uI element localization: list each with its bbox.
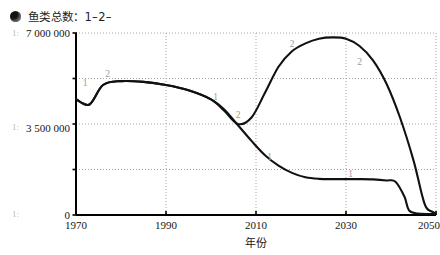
series-point-label: 1	[348, 169, 353, 179]
series-point-label: 2	[105, 69, 110, 79]
series-point-label: 1	[267, 152, 272, 162]
series-point-label: 2	[357, 57, 362, 67]
series-point-label: 1	[83, 78, 88, 88]
series-line-1	[76, 81, 436, 214]
series-point-label: 1	[213, 92, 218, 102]
series-point-label: 2	[290, 39, 295, 49]
series-point-label: 2	[236, 110, 241, 120]
